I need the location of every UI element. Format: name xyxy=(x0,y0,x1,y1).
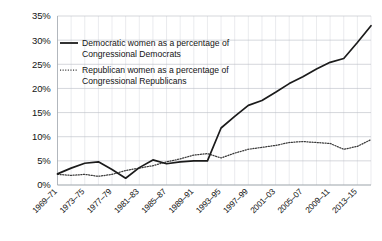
y-axis-tick-label: 25% xyxy=(32,59,51,70)
y-axis-tick-label: 5% xyxy=(37,155,51,166)
y-axis-tick-label: 10% xyxy=(32,131,51,142)
y-axis-tick-label: 30% xyxy=(32,35,51,46)
line-chart: 0%5%10%15%20%25%30%35% 1969–711973–75197… xyxy=(0,0,382,241)
legend-label-republican-line2: Congressional Republicans xyxy=(82,76,187,86)
legend-label-democratic-line1: Democratic women as a percentage of xyxy=(82,38,230,48)
chart-container: 0%5%10%15%20%25%30%35% 1969–711973–75197… xyxy=(0,0,382,241)
legend-label-democratic-line2: Congressional Democrats xyxy=(82,49,181,59)
y-axis-tick-label: 20% xyxy=(32,83,51,94)
y-axis-tick-label: 35% xyxy=(32,10,51,21)
y-axis-tick-label: 15% xyxy=(32,107,51,118)
legend-label-republican-line1: Republican women as a percentage of xyxy=(82,65,229,75)
